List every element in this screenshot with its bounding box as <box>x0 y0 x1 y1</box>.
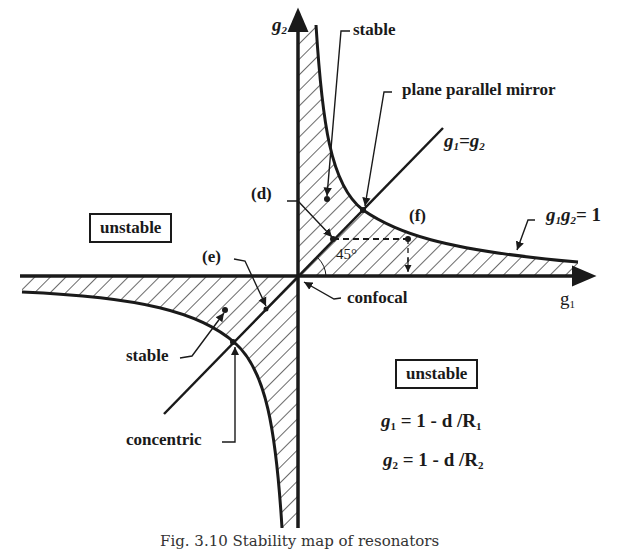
concentric-label: concentric <box>126 430 202 450</box>
stable-bottom-label: stable <box>126 346 169 366</box>
diagonal-label: g1=g2 <box>444 130 485 152</box>
point-f <box>405 236 411 242</box>
unstable-label-right: unstable <box>395 359 478 389</box>
point-stable-top <box>324 196 330 202</box>
angle-label: 45° <box>336 246 357 263</box>
hyperbola-label: g1g2= 1 <box>546 204 601 226</box>
point-f-label: (f) <box>409 206 426 226</box>
point-plane-parallel <box>360 207 366 213</box>
figure-caption: Fig. 3.10 Stability map of resonators <box>160 532 439 550</box>
stable-top-label: stable <box>353 20 396 40</box>
point-e <box>264 307 269 312</box>
leader-concentric <box>222 347 235 442</box>
leader-plane-parallel <box>365 92 392 206</box>
confocal-label: confocal <box>347 288 407 308</box>
point-d <box>330 236 336 242</box>
point-e-label: (e) <box>202 247 221 267</box>
point-concentric <box>230 339 236 345</box>
unstable-label-left: unstable <box>89 213 172 243</box>
leader-hyperbola <box>517 220 535 250</box>
equation-g1: g1 = 1 - d /R1 <box>381 410 481 432</box>
point-stable-bottom <box>222 307 228 313</box>
leader-confocal <box>304 282 341 299</box>
plane-parallel-label: plane parallel mirror <box>402 80 556 100</box>
stable-region-q3 <box>22 276 298 528</box>
stable-region-q1 <box>298 25 578 276</box>
g2-axis-label: g2 <box>272 14 287 36</box>
equation-g2: g2 = 1 - d /R2 <box>383 449 483 471</box>
g1-axis-label: g1 <box>560 288 575 310</box>
point-d-label: (d) <box>251 184 272 204</box>
